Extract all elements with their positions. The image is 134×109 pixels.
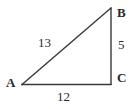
triangle-diagram: A B C 13 5 12: [0, 0, 134, 109]
triangle-edge-ab: [22, 8, 111, 85]
vertex-label-a: A: [6, 76, 15, 89]
side-length-label-vertical-leg: 5: [118, 38, 125, 51]
vertex-label-c: C: [117, 71, 126, 84]
vertex-label-b: B: [117, 6, 126, 19]
side-length-label-horizontal-leg: 12: [57, 90, 70, 103]
side-length-label-hypotenuse: 13: [38, 36, 51, 49]
